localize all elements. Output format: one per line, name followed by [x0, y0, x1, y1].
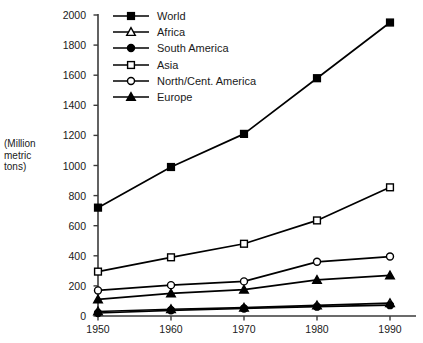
- marker-open-square: [387, 184, 394, 191]
- legend-label: North/Cent. America: [157, 75, 256, 87]
- marker-filled-circle: [95, 309, 102, 316]
- marker-open-square: [128, 61, 135, 68]
- marker-filled-circle: [168, 307, 175, 314]
- legend-item-south-america[interactable]: South America: [112, 40, 312, 56]
- marker-filled-square: [387, 19, 394, 26]
- legend-item-africa[interactable]: Africa: [112, 24, 312, 40]
- legend-swatch: [112, 9, 150, 23]
- marker-open-circle: [241, 278, 248, 285]
- y-axis-tick-label: 2000: [46, 10, 86, 21]
- marker-filled-square: [168, 164, 175, 171]
- legend-symbol-open-square-icon: [112, 58, 150, 72]
- legend-swatch: [112, 90, 150, 104]
- legend-swatch: [112, 41, 150, 55]
- legend-symbol-open-circle-icon: [112, 74, 150, 88]
- marker-open-circle: [387, 253, 394, 260]
- marker-filled-circle: [314, 303, 321, 310]
- x-axis-tick-label: 1980: [294, 324, 340, 335]
- legend-label: Europe: [157, 91, 192, 103]
- marker-filled-square: [314, 75, 321, 82]
- marker-open-square: [314, 217, 321, 224]
- marker-filled-circle: [128, 45, 135, 52]
- legend-label: Africa: [157, 26, 185, 38]
- y-axis-tick-label: 1600: [46, 70, 86, 81]
- x-axis-tick-label: 1970: [221, 324, 267, 335]
- y-axis-tick-label: 600: [46, 221, 86, 232]
- legend-symbol-open-triangle-icon: [112, 25, 150, 39]
- y-axis-title-line-2: metric: [4, 150, 56, 162]
- series-points-asia: [95, 184, 394, 275]
- marker-filled-circle: [387, 302, 394, 309]
- y-axis-tick-label: 1200: [46, 130, 86, 141]
- legend-symbol-filled-triangle-icon: [112, 90, 150, 104]
- y-axis-tick-label: 1400: [46, 100, 86, 111]
- line-chart: (Million metric tons) 020040060080010001…: [0, 0, 423, 343]
- legend-item-north-cent-america[interactable]: North/Cent. America: [112, 73, 312, 89]
- marker-filled-square: [95, 204, 102, 211]
- marker-open-circle: [128, 77, 135, 84]
- legend-symbol-filled-square-icon: [112, 9, 150, 23]
- legend: WorldAfricaSouth AmericaAsiaNorth/Cent. …: [112, 8, 312, 105]
- legend-swatch: [112, 58, 150, 72]
- marker-filled-circle: [241, 305, 248, 312]
- marker-open-circle: [95, 287, 102, 294]
- x-axis-tick-label: 1960: [148, 324, 194, 335]
- y-axis-tick-label: 400: [46, 251, 86, 262]
- legend-item-europe[interactable]: Europe: [112, 89, 312, 105]
- legend-swatch: [112, 74, 150, 88]
- legend-item-world[interactable]: World: [112, 8, 312, 24]
- legend-swatch: [112, 25, 150, 39]
- y-axis-tick-label: 800: [46, 191, 86, 202]
- legend-label: World: [157, 10, 186, 22]
- marker-filled-square: [241, 130, 248, 137]
- y-axis-tick-label: 1800: [46, 40, 86, 51]
- legend-label: Asia: [157, 59, 178, 71]
- y-axis-tick-label: 1000: [46, 161, 86, 172]
- legend-symbol-filled-circle-icon: [112, 41, 150, 55]
- marker-open-square: [241, 240, 248, 247]
- marker-open-circle: [168, 282, 175, 289]
- legend-item-asia[interactable]: Asia: [112, 57, 312, 73]
- x-axis-tick-label: 1950: [75, 324, 121, 335]
- marker-filled-square: [128, 13, 135, 20]
- marker-open-square: [95, 268, 102, 275]
- x-axis-tick-label: 1990: [367, 324, 413, 335]
- y-axis-tick-label: 0: [46, 311, 86, 322]
- legend-label: South America: [157, 42, 229, 54]
- marker-open-square: [168, 254, 175, 261]
- y-axis-tick-label: 200: [46, 281, 86, 292]
- marker-open-circle: [314, 258, 321, 265]
